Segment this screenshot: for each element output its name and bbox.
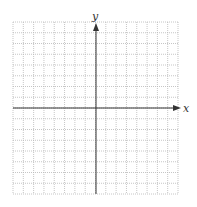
coordinate-grid: x y (0, 0, 197, 207)
x-axis-arrow-icon (173, 105, 181, 111)
y-axis-label: y (91, 10, 99, 23)
x-axis-label: x (183, 102, 190, 115)
y-axis-arrow-icon (93, 23, 99, 31)
